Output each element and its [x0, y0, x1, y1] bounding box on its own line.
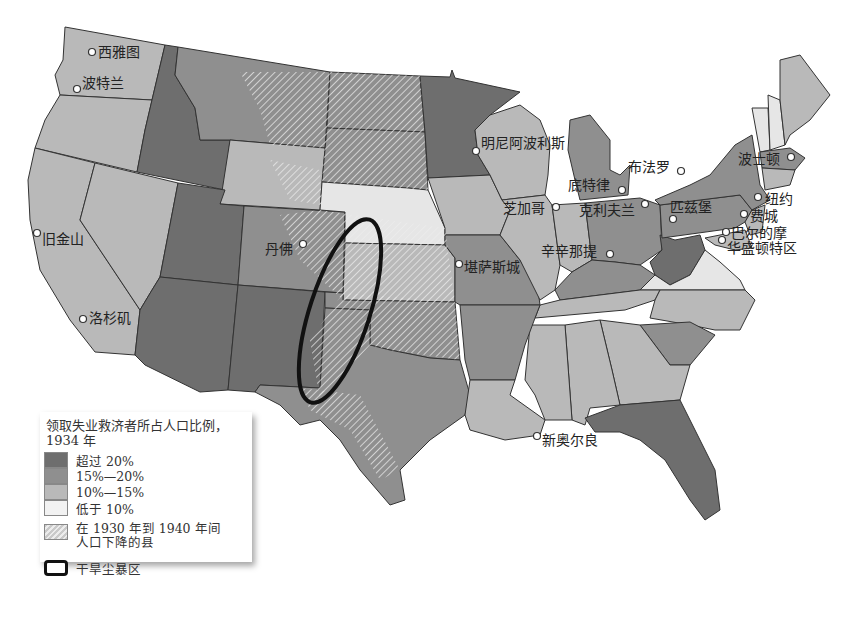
- legend-label: 超过 20%: [76, 451, 134, 470]
- legend-swatch-medium-dark: [44, 468, 68, 484]
- state-maine: [780, 55, 830, 145]
- state-florida: [585, 400, 720, 520]
- svg-text:匹兹堡: 匹兹堡: [670, 199, 712, 215]
- svg-text:底特律: 底特律: [568, 177, 610, 193]
- svg-text:芝加哥: 芝加哥: [503, 200, 545, 216]
- legend-title-year: 1934 年: [46, 433, 96, 448]
- legend-label: 10%—15%: [76, 485, 144, 500]
- svg-text:华盛顿特区: 华盛顿特区: [727, 240, 797, 256]
- svg-text:洛杉矶: 洛杉矶: [89, 310, 131, 326]
- city-san-francisco: 旧金山: [34, 230, 85, 248]
- legend-hatch-line-1: 在 1930 年到 1940 年间: [76, 521, 221, 536]
- city-buffalo: 布法罗: [628, 159, 685, 175]
- city-washington-dc: 华盛顿特区: [719, 237, 798, 257]
- legend-title-text: 领取失业救济者所占人口比例，: [46, 418, 228, 433]
- svg-text:辛辛那提: 辛辛那提: [541, 243, 597, 259]
- legend-swatch-light: [44, 500, 68, 516]
- legend-swatch-hatch-icon: [44, 524, 68, 540]
- svg-text:纽约: 纽约: [765, 191, 793, 207]
- legend-swatch-dark: [44, 452, 68, 468]
- legend-label: 低于 10%: [76, 499, 134, 518]
- svg-text:布法罗: 布法罗: [628, 159, 670, 175]
- state-mississippi: [525, 325, 572, 420]
- legend-item-10-15: 10%—15%: [44, 484, 246, 500]
- legend-item-under-10: 低于 10%: [44, 500, 246, 516]
- svg-text:旧金山: 旧金山: [42, 231, 84, 247]
- svg-text:巴尔的摩: 巴尔的摩: [731, 225, 787, 241]
- city-new-orleans: 新奥尔良: [534, 432, 599, 448]
- city-kansas-city: 堪萨斯城: [456, 259, 521, 275]
- legend-dust-bowl-icon: [44, 560, 68, 576]
- legend-item-dust-bowl: 干旱尘暴区: [44, 560, 246, 576]
- svg-text:堪萨斯城: 堪萨斯城: [464, 259, 520, 275]
- city-portland: 波特兰: [74, 75, 125, 93]
- state-arizona: [135, 277, 238, 392]
- svg-text:西雅图: 西雅图: [98, 44, 140, 60]
- svg-text:费城: 费城: [750, 208, 778, 224]
- legend-label-dust-bowl: 干旱尘暴区: [76, 559, 141, 578]
- legend-item-over-20: 超过 20%: [44, 452, 246, 468]
- legend-label: 15%—20%: [76, 469, 144, 484]
- legend-label-population-decline: 在 1930 年到 1940 年间 人口下降的县: [76, 522, 221, 550]
- legend-title: 领取失业救济者所占人口比例， 1934 年: [46, 418, 246, 448]
- legend-hatch-line-2: 人口下降的县: [76, 535, 154, 550]
- legend-swatch-medium-light: [44, 484, 68, 500]
- state-vermont: [752, 108, 770, 152]
- state-connecticut-ri: [762, 168, 795, 190]
- svg-text:丹佛: 丹佛: [265, 241, 293, 257]
- svg-text:波特兰: 波特兰: [82, 75, 124, 91]
- svg-text:克利夫兰: 克利夫兰: [579, 202, 635, 218]
- svg-text:新奥尔良: 新奥尔良: [542, 432, 598, 448]
- legend-item-population-decline: 在 1930 年到 1940 年间 人口下降的县: [44, 522, 246, 554]
- map-legend: 领取失业救济者所占人口比例， 1934 年 超过 20% 15%—20% 10%…: [40, 412, 252, 562]
- city-baltimore: 巴尔的摩: [723, 225, 788, 241]
- svg-text:明尼阿波利斯: 明尼阿波利斯: [481, 135, 565, 151]
- legend-item-15-20: 15%—20%: [44, 468, 246, 484]
- svg-text:波士顿: 波士顿: [738, 151, 780, 167]
